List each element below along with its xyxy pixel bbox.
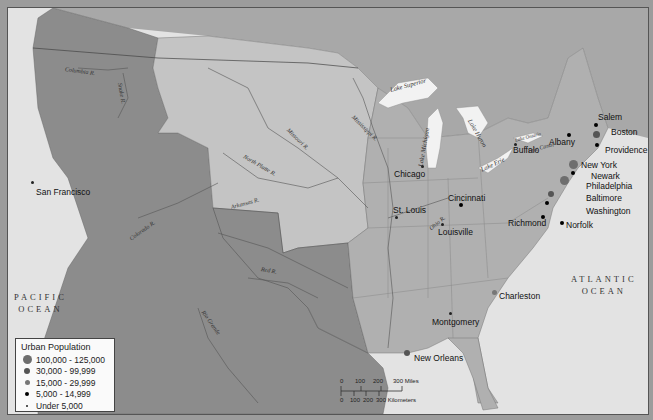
legend-item: Under 5,000 bbox=[21, 400, 109, 412]
city-label-philadelphia: Philadelphia bbox=[586, 182, 632, 191]
city-label-san-francisco: San Francisco bbox=[36, 188, 90, 197]
legend-dot-tiny-icon bbox=[26, 405, 28, 407]
atlantic-ocean-label: ATLANTIC OCEAN bbox=[571, 273, 637, 297]
city-label-louisville: Louisville bbox=[438, 228, 473, 237]
scale-bar-graphic bbox=[338, 386, 408, 396]
city-dot-norfolk[interactable] bbox=[560, 221, 564, 225]
city-label-new-orleans: New Orleans bbox=[414, 354, 463, 363]
city-label-new-york: New York bbox=[581, 161, 617, 170]
city-dot-cincinnati[interactable] bbox=[459, 203, 463, 207]
legend-label: Under 5,000 bbox=[36, 401, 83, 411]
scale-km-100: 100 bbox=[350, 397, 360, 403]
city-label-montgomery: Montgomery bbox=[432, 318, 479, 327]
scale-miles-0: 0 bbox=[340, 378, 343, 384]
city-dot-san-francisco[interactable] bbox=[31, 181, 34, 184]
scale-km-300: 300 Kilometers bbox=[376, 397, 416, 403]
legend-label: 5,000 - 14,999 bbox=[36, 389, 91, 399]
map-frame: Salem Boston Providence Albany Buffalo N… bbox=[7, 7, 649, 415]
legend-label: 15,000 - 29,999 bbox=[36, 378, 96, 388]
legend-item: 15,000 - 29,999 bbox=[21, 377, 109, 389]
city-label-washington: Washington bbox=[586, 207, 631, 216]
legend-dot-xsmall-icon bbox=[25, 392, 29, 396]
city-label-norfolk: Norfolk bbox=[566, 221, 593, 230]
city-label-newark: Newark bbox=[591, 172, 620, 181]
legend-item: 5,000 - 14,999 bbox=[21, 389, 109, 401]
legend-label: 30,000 - 99,999 bbox=[36, 366, 96, 376]
scale-miles-200: 200 bbox=[373, 378, 383, 384]
city-label-baltimore: Baltimore bbox=[586, 194, 622, 203]
city-label-charleston: Charleston bbox=[499, 292, 540, 301]
legend-title: Urban Population bbox=[21, 342, 109, 352]
city-dot-new-orleans[interactable] bbox=[404, 350, 410, 356]
legend-item: 30,000 - 99,999 bbox=[21, 366, 109, 378]
city-dot-st-louis[interactable] bbox=[395, 216, 398, 219]
scale-miles-300: 300 Miles bbox=[393, 378, 419, 384]
city-dot-baltimore[interactable] bbox=[548, 191, 554, 197]
city-label-providence: Providence bbox=[605, 146, 648, 155]
city-label-cincinnati: Cincinnati bbox=[448, 194, 485, 203]
legend-item: 100,000 - 125,000 bbox=[21, 354, 109, 366]
city-dot-charleston[interactable] bbox=[492, 290, 497, 295]
scale-km-200: 200 bbox=[363, 397, 373, 403]
city-label-salem: Salem bbox=[598, 113, 622, 122]
city-dot-philadelphia[interactable] bbox=[560, 176, 569, 185]
legend: Urban Population 100,000 - 125,000 30,00… bbox=[15, 338, 115, 412]
scale-km-0: 0 bbox=[340, 397, 343, 403]
legend-label: 100,000 - 125,000 bbox=[36, 355, 105, 365]
city-dot-salem[interactable] bbox=[594, 123, 598, 127]
city-label-richmond: Richmond bbox=[508, 219, 546, 228]
city-label-st-louis: St. Louis bbox=[393, 206, 426, 215]
city-dot-washington[interactable] bbox=[545, 201, 549, 205]
city-dot-louisville[interactable] bbox=[441, 223, 444, 226]
city-dot-new-york[interactable] bbox=[569, 160, 578, 169]
legend-dot-large-icon bbox=[23, 355, 32, 364]
city-dot-montgomery[interactable] bbox=[449, 312, 452, 315]
legend-dot-medium-icon bbox=[24, 368, 30, 374]
scale-bar: 0 100 200 300 Miles 0 100 200 300 Kilome… bbox=[338, 378, 478, 415]
city-dot-newark[interactable] bbox=[571, 171, 575, 175]
pacific-ocean-label: PACIFIC OCEAN bbox=[14, 291, 67, 315]
scale-miles-100: 100 bbox=[355, 378, 365, 384]
city-label-boston: Boston bbox=[611, 128, 637, 137]
city-dot-providence[interactable] bbox=[595, 143, 599, 147]
city-label-chicago: Chicago bbox=[394, 170, 425, 179]
city-dot-boston[interactable] bbox=[593, 131, 600, 138]
legend-dot-small-icon bbox=[25, 380, 30, 385]
